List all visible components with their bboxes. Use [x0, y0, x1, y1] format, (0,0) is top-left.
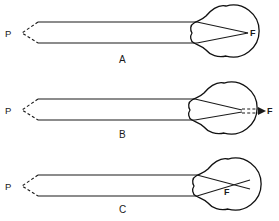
- refracted-ray-bottom-a: [197, 33, 248, 43]
- panel-a: P F A: [5, 5, 259, 65]
- eyeball-outline-c: [193, 158, 261, 210]
- refracted-ray-top-a: [197, 22, 248, 33]
- panel-b: P F B: [5, 82, 273, 140]
- panel-label-b: B: [119, 129, 126, 140]
- object-arrowhead-c: [22, 175, 38, 196]
- panel-label-a: A: [119, 54, 126, 65]
- figure-canvas: P F A P F B: [0, 0, 279, 221]
- optics-ray-diagram-figure: P F A P F B: [0, 0, 279, 221]
- object-arrowhead-a: [22, 22, 38, 43]
- eyeball-outline-a: [191, 5, 259, 57]
- refracted-ray-top-b: [195, 99, 242, 110]
- eyeball-outline-b: [189, 82, 257, 134]
- focus-label-a: F: [250, 28, 256, 38]
- object-arrowhead-b: [22, 99, 38, 120]
- refracted-ray-bottom-b: [195, 112, 242, 120]
- focus-label-c: F: [224, 187, 230, 197]
- panel-c: P F C: [5, 158, 261, 215]
- object-label-c: P: [5, 181, 11, 192]
- panel-label-c: C: [119, 204, 126, 215]
- object-label-a: P: [5, 28, 11, 39]
- object-label-b: P: [5, 105, 11, 116]
- virtual-focus-arrowhead-b: [258, 107, 266, 115]
- focus-label-b: F: [267, 106, 273, 116]
